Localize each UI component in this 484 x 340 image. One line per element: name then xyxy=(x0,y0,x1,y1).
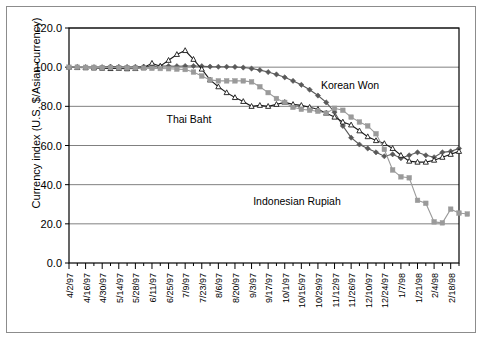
y-tick-label: 120.0 xyxy=(34,22,62,34)
data-point xyxy=(83,65,88,70)
data-point xyxy=(457,211,462,216)
data-point xyxy=(316,109,321,114)
data-point xyxy=(158,66,163,71)
data-point xyxy=(191,70,196,75)
y-tick-label: 80.0 xyxy=(41,100,62,112)
data-point xyxy=(407,176,412,181)
data-point xyxy=(390,152,395,157)
data-point xyxy=(423,153,428,158)
data-point xyxy=(208,78,213,83)
x-tick-label: 1/21/98 xyxy=(414,273,424,303)
data-point xyxy=(150,66,155,71)
x-tick-label: 9/3/97 xyxy=(248,273,258,298)
data-point xyxy=(349,115,354,120)
x-tick-label: 5/14/97 xyxy=(115,273,125,303)
y-tick-label: 60.0 xyxy=(41,140,62,152)
data-point xyxy=(299,107,304,112)
data-point xyxy=(258,84,263,89)
x-tick-label: 9/17/97 xyxy=(264,273,274,303)
x-tick-label: 10/1/97 xyxy=(281,273,291,303)
data-point xyxy=(224,64,229,69)
x-tick-label: 10/15/97 xyxy=(297,273,307,308)
data-point xyxy=(407,153,412,158)
data-point xyxy=(365,124,370,129)
x-tick-label: 6/11/97 xyxy=(148,273,158,302)
data-point xyxy=(133,66,138,71)
data-point xyxy=(257,68,262,73)
data-point xyxy=(324,111,329,116)
y-tick-label: 100.0 xyxy=(34,61,62,73)
x-tick-label: 4/2/97 xyxy=(65,273,75,298)
y-tick-label: 0.0 xyxy=(47,257,62,269)
chart-plot: 0.020.040.060.080.0100.0120.04/2/974/16/… xyxy=(7,7,477,334)
data-point xyxy=(390,168,395,173)
data-point xyxy=(125,65,130,70)
x-tick-label: 10/29/97 xyxy=(314,273,324,308)
chart-root: Currency index (U.S. $/Asian currency) 0… xyxy=(0,0,484,340)
data-point xyxy=(224,90,229,95)
x-tick-label: 5/28/97 xyxy=(131,273,141,303)
data-point xyxy=(332,106,337,111)
data-point xyxy=(216,64,221,69)
data-point xyxy=(266,90,271,95)
x-tick-label: 4/30/97 xyxy=(98,273,108,303)
data-point xyxy=(100,65,105,70)
data-point xyxy=(232,64,237,69)
data-point xyxy=(266,69,271,74)
data-point xyxy=(166,58,171,63)
data-point xyxy=(232,95,237,100)
data-point xyxy=(257,103,262,108)
data-point xyxy=(373,150,378,155)
x-tick-label: 8/6/97 xyxy=(214,273,224,298)
data-point xyxy=(224,79,229,84)
data-point xyxy=(199,74,204,79)
data-point xyxy=(249,80,254,85)
x-tick-label: 4/16/97 xyxy=(82,273,92,303)
data-point xyxy=(274,72,279,77)
series-line xyxy=(69,66,459,158)
y-tick-label: 20.0 xyxy=(41,218,62,230)
data-point xyxy=(390,146,395,151)
data-point xyxy=(75,65,80,70)
data-point xyxy=(166,66,171,71)
x-tick-label: 2/4/98 xyxy=(430,273,440,298)
x-tick-label: 12/24/97 xyxy=(380,273,390,308)
data-point xyxy=(183,48,188,53)
x-tick-label: 8/20/97 xyxy=(231,273,241,303)
data-point xyxy=(448,207,453,212)
data-point xyxy=(440,221,445,226)
data-point xyxy=(282,100,287,105)
data-point xyxy=(341,108,346,113)
data-point xyxy=(415,198,420,203)
x-tick-label: 7/9/97 xyxy=(181,273,191,298)
data-point xyxy=(465,212,470,217)
data-point xyxy=(274,96,279,101)
x-tick-label: 11/12/97 xyxy=(331,273,341,307)
data-point xyxy=(307,108,312,113)
x-tick-label: 12/10/97 xyxy=(364,273,374,308)
x-tick-label: 7/23/97 xyxy=(198,273,208,303)
data-point xyxy=(108,65,113,70)
data-point xyxy=(216,79,221,84)
data-point xyxy=(282,75,287,80)
data-point xyxy=(233,79,238,84)
x-tick-label: 2/18/98 xyxy=(447,273,457,303)
series-korean-won xyxy=(66,63,461,160)
data-point xyxy=(432,220,437,225)
data-point xyxy=(241,79,246,84)
data-point xyxy=(67,65,72,70)
series-annotation: Indonesian Rupiah xyxy=(253,195,341,207)
data-point xyxy=(357,128,362,133)
data-point xyxy=(175,67,180,72)
data-point xyxy=(141,66,146,71)
x-tick-label: 11/26/97 xyxy=(347,273,357,307)
x-tick-label: 1/7/98 xyxy=(397,273,407,298)
chart-frame: Currency index (U.S. $/Asian currency) 0… xyxy=(6,6,476,333)
data-point xyxy=(357,120,362,125)
data-point xyxy=(407,158,412,163)
data-point xyxy=(340,119,345,124)
series-annotation: Thai Baht xyxy=(167,113,212,125)
data-point xyxy=(116,65,121,70)
data-point xyxy=(291,105,296,110)
data-point xyxy=(183,67,188,72)
